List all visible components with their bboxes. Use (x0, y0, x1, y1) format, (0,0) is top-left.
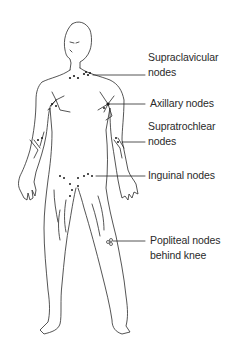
inguinal-node-cluster (59, 173, 93, 197)
label-line: Supraclavicular (148, 50, 218, 65)
label-axillary-nodes: Axillary nodes (150, 96, 214, 111)
label-line: Axillary nodes (150, 96, 214, 111)
thigh-detail (54, 190, 104, 240)
popliteal-node-cluster (107, 239, 113, 246)
label-line: nodes (148, 134, 215, 149)
label-line: Popliteal nodes (150, 233, 220, 248)
label-line: Inguinal nodes (148, 168, 215, 183)
torso-outline-right (78, 68, 138, 334)
label-line: Supratrochlear (148, 119, 215, 134)
head-outline (64, 22, 91, 70)
label-supratrochlear-nodes: Supratrochlear nodes (148, 119, 215, 149)
label-line: behind knee (150, 248, 220, 263)
label-supraclavicular-nodes: Supraclavicular nodes (148, 50, 218, 80)
label-inguinal-nodes: Inguinal nodes (148, 168, 215, 183)
face-detail (70, 42, 79, 52)
label-line: nodes (148, 65, 218, 80)
label-popliteal-nodes: Popliteal nodes behind knee (150, 233, 220, 263)
torso-outline (19, 70, 77, 334)
chest-lymph-vessels (48, 92, 114, 120)
